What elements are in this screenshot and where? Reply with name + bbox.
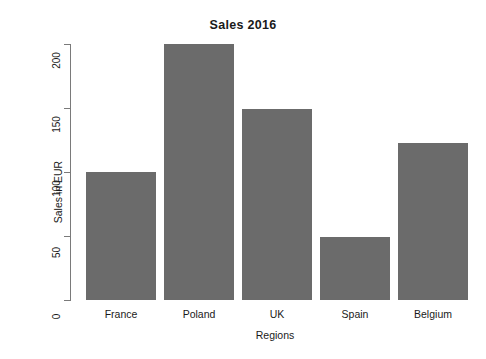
y-tick-mark-0: [64, 300, 70, 301]
x-tick-label-poland: Poland: [164, 308, 234, 320]
y-tick-label-0: 0: [51, 301, 62, 333]
bar-group-belgium: [398, 44, 468, 300]
x-tick-label-france: France: [86, 308, 156, 320]
bar-uk[interactable]: [242, 109, 312, 300]
bar-france[interactable]: [86, 172, 156, 300]
x-tick-label-uk: UK: [242, 308, 312, 320]
bar-belgium[interactable]: [398, 143, 468, 300]
x-tick-label-spain: Spain: [320, 308, 390, 320]
chart-title: Sales 2016: [0, 18, 486, 32]
x-axis-title: Regions: [70, 329, 480, 341]
bar-group-uk: [242, 44, 312, 300]
bar-chart: Sales 2016 0 50 100 150 200 France Polan…: [0, 0, 486, 359]
bar-poland[interactable]: [164, 44, 234, 300]
bar-group-spain: [320, 44, 390, 300]
y-tick-label-150: 150: [51, 109, 62, 141]
y-tick-label-200: 200: [51, 45, 62, 77]
plot-area: [70, 44, 480, 300]
bar-group-poland: [164, 44, 234, 300]
bar-group-france: [86, 44, 156, 300]
y-axis-title: Sales in EUR: [52, 142, 68, 242]
bar-spain[interactable]: [320, 237, 390, 300]
x-tick-label-belgium: Belgium: [398, 308, 468, 320]
